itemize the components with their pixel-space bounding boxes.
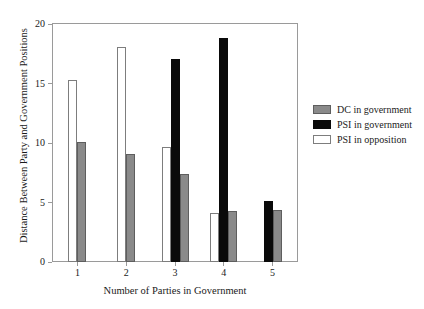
- bar-group-4: [210, 24, 237, 262]
- y-tick-label: 5: [40, 195, 45, 211]
- y-tick-label: 0: [40, 254, 45, 270]
- x-tick-mark: [126, 262, 127, 266]
- legend-item-psi-in-opposition[interactable]: PSI in opposition: [313, 133, 412, 146]
- legend-label: PSI in opposition: [337, 134, 406, 145]
- x-tick-label: 1: [67, 267, 87, 278]
- x-axis: 12345: [53, 262, 297, 302]
- x-tick-mark: [175, 262, 176, 266]
- x-tick-mark: [77, 262, 78, 266]
- y-tick-mark: [48, 24, 52, 25]
- legend-label: PSI in government: [337, 119, 412, 130]
- y-tick-mark: [48, 143, 52, 144]
- bar-psi-in-government-4: [219, 38, 228, 262]
- bar-group-2: [117, 24, 135, 262]
- bar-dc-in-government-1: [77, 142, 86, 262]
- bar-dc-in-government-2: [126, 154, 135, 262]
- y-tick-mark: [48, 202, 52, 203]
- bar-psi-in-opposition-1: [68, 80, 77, 262]
- bar-dc-in-government-3: [180, 174, 189, 262]
- legend-swatch-white-icon: [313, 135, 331, 144]
- x-tick-mark: [223, 262, 224, 266]
- bar-psi-in-opposition-4: [210, 213, 219, 262]
- bars-layer: [53, 24, 297, 262]
- bar-chart-figure: 05101520 Distance Between Party and Gove…: [0, 0, 424, 309]
- bar-psi-in-opposition-2: [117, 47, 126, 262]
- x-tick-label: 5: [263, 267, 283, 278]
- bar-dc-in-government-5: [273, 210, 282, 262]
- y-tick-label: 15: [35, 76, 45, 92]
- legend-swatch-black-icon: [313, 120, 331, 129]
- y-tick-mark: [48, 83, 52, 84]
- x-tick-label: 3: [165, 267, 185, 278]
- x-tick-label: 2: [116, 267, 136, 278]
- y-tick-label: 20: [35, 16, 45, 32]
- legend-swatch-gray-icon: [313, 105, 331, 114]
- bar-group-3: [162, 24, 189, 262]
- bar-psi-in-opposition-3: [162, 147, 171, 262]
- y-axis-title: Distance Between Party and Government Po…: [18, 16, 29, 256]
- bar-psi-in-government-5: [264, 201, 273, 262]
- y-tick-label: 10: [35, 135, 45, 151]
- bar-group-5: [264, 24, 282, 262]
- bar-group-1: [68, 24, 86, 262]
- legend-label: DC in government: [337, 104, 411, 115]
- legend-item-psi-in-government[interactable]: PSI in government: [313, 118, 412, 131]
- legend-item-dc-in-government[interactable]: DC in government: [313, 103, 412, 116]
- bar-psi-in-government-3: [171, 59, 180, 262]
- chart-legend: DC in governmentPSI in governmentPSI in …: [313, 103, 412, 148]
- x-axis-title: Number of Parties in Government: [52, 285, 298, 296]
- x-tick-mark: [272, 262, 273, 266]
- x-tick-label: 4: [214, 267, 234, 278]
- y-tick-mark: [48, 262, 52, 263]
- bar-dc-in-government-4: [228, 211, 237, 262]
